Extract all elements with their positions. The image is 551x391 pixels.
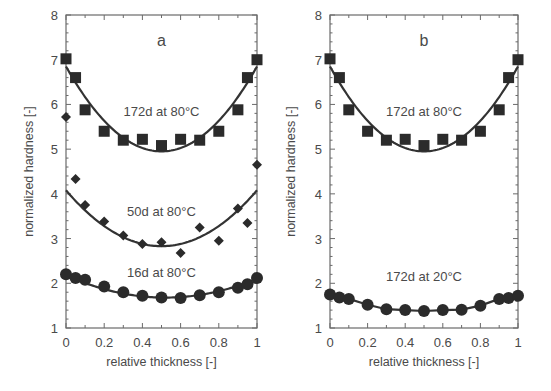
- x-axis-label: relative thickness [-]: [106, 355, 216, 369]
- curve-label: 172d at 80°C: [123, 104, 199, 119]
- square-marker: [437, 134, 448, 145]
- curve-label: 172d at 80°C: [386, 104, 462, 119]
- square-marker: [175, 134, 186, 145]
- y-tick-label: 8: [315, 8, 322, 23]
- curve-label: 16d at 80°C: [127, 265, 196, 280]
- x-tick-label: 0.6: [434, 335, 452, 350]
- circle-marker: [456, 304, 468, 316]
- x-tick-label: 0.2: [95, 335, 113, 350]
- diamond-marker: [176, 248, 186, 258]
- y-tick-label: 5: [315, 142, 322, 157]
- y-tick-label: 4: [315, 187, 322, 202]
- square-marker: [419, 140, 430, 151]
- curve-label: 50d at 80°C: [127, 204, 196, 219]
- x-tick-label: 0.2: [359, 335, 377, 350]
- circle-marker: [474, 300, 486, 312]
- x-tick-label: 1: [253, 335, 260, 350]
- circle-marker: [512, 290, 524, 302]
- y-tick-label: 2: [315, 276, 322, 291]
- x-axis-label: relative thickness [-]: [369, 355, 479, 369]
- diamond-marker: [242, 218, 252, 228]
- circle-marker: [418, 305, 430, 317]
- circle-marker: [380, 303, 392, 315]
- square-marker: [475, 126, 486, 137]
- square-marker: [494, 104, 505, 115]
- panel-letter: b: [420, 32, 429, 49]
- square-marker: [137, 134, 148, 145]
- diamond-marker: [99, 217, 109, 227]
- square-marker: [381, 135, 392, 146]
- x-tick-label: 0.8: [210, 335, 228, 350]
- square-marker: [503, 72, 514, 83]
- square-marker: [156, 140, 167, 151]
- curve-label: 172d at 20°C: [386, 269, 462, 284]
- series-square: 172d at 80°C: [61, 53, 263, 151]
- circle-marker: [156, 292, 168, 304]
- y-tick-label: 4: [51, 187, 58, 202]
- y-tick-label: 6: [51, 97, 58, 112]
- panel-letter: a: [157, 32, 166, 49]
- series-diamond: 50d at 80°C: [61, 112, 262, 258]
- square-marker: [513, 54, 524, 65]
- square-marker: [80, 104, 91, 115]
- circle-marker: [175, 292, 187, 304]
- diamond-marker: [71, 174, 81, 184]
- x-tick-label: 0: [62, 335, 69, 350]
- y-tick-label: 6: [315, 97, 322, 112]
- y-tick-label: 8: [51, 8, 58, 23]
- x-tick-label: 1: [514, 335, 521, 350]
- y-tick-label: 1: [51, 321, 58, 336]
- circle-marker: [399, 304, 411, 316]
- x-tick-label: 0.6: [172, 335, 190, 350]
- y-tick-label: 2: [51, 276, 58, 291]
- circle-marker: [117, 286, 129, 298]
- diamond-marker: [214, 236, 224, 246]
- y-axis-label: normalized hardness [-]: [22, 106, 36, 237]
- y-tick-label: 7: [315, 53, 322, 68]
- square-marker: [213, 126, 224, 137]
- diamond-marker: [233, 204, 243, 214]
- square-marker: [242, 72, 253, 83]
- square-marker: [334, 72, 345, 83]
- series-circle: 16d at 80°C: [60, 265, 263, 304]
- diamond-marker: [137, 239, 147, 249]
- circle-marker: [437, 304, 449, 316]
- circle-marker: [343, 293, 355, 305]
- circle-marker: [251, 272, 263, 284]
- y-tick-label: 1: [315, 321, 322, 336]
- square-marker: [343, 104, 354, 115]
- circle-marker: [98, 280, 110, 292]
- panel-b: 00.20.40.60.8112345678relative thickness…: [284, 8, 524, 369]
- circle-marker: [362, 299, 374, 311]
- square-marker: [194, 135, 205, 146]
- square-marker: [400, 134, 411, 145]
- square-marker: [70, 72, 81, 83]
- y-tick-label: 5: [51, 142, 58, 157]
- circle-marker: [136, 290, 148, 302]
- series-circle: 172d at 20°C: [324, 269, 524, 317]
- figure: 00.20.40.60.8112345678relative thickness…: [0, 0, 551, 391]
- square-marker: [61, 53, 72, 64]
- y-tick-label: 3: [315, 232, 322, 247]
- y-tick-label: 3: [51, 232, 58, 247]
- diamond-marker: [195, 222, 205, 232]
- circle-marker: [194, 289, 206, 301]
- square-marker: [456, 135, 467, 146]
- x-tick-label: 0.4: [396, 335, 414, 350]
- x-tick-label: 0: [326, 335, 333, 350]
- x-tick-label: 0.4: [133, 335, 151, 350]
- panel-a: 00.20.40.60.8112345678relative thickness…: [22, 8, 263, 369]
- y-axis-label: normalized hardness [-]: [284, 106, 298, 237]
- plot-frame: [66, 15, 257, 328]
- diamond-marker: [252, 160, 262, 170]
- circle-marker: [79, 274, 91, 286]
- chart-canvas: 00.20.40.60.8112345678relative thickness…: [0, 0, 551, 391]
- square-marker: [118, 135, 129, 146]
- square-marker: [99, 126, 110, 137]
- square-marker: [232, 104, 243, 115]
- series-square: 172d at 80°C: [325, 53, 524, 151]
- square-marker: [362, 126, 373, 137]
- square-marker: [252, 54, 263, 65]
- diamond-marker: [61, 112, 71, 122]
- square-marker: [325, 53, 336, 64]
